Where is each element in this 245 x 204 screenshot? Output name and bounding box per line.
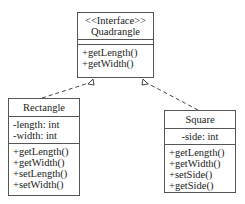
class-square: Square -side: int +getLength() +getWidth… [164, 110, 236, 193]
method: +setSide() [169, 169, 231, 180]
class-attributes: -side: int [165, 128, 235, 144]
interface-name: Quadrangle [82, 26, 149, 37]
method: +getSide() [169, 180, 231, 191]
class-name: Rectangle [9, 99, 79, 116]
class-name: Square [165, 111, 235, 128]
method: +getWidth() [82, 58, 149, 69]
class-methods: +getLength() +getWidth() +setSide() +get… [165, 144, 235, 193]
attribute: -side: int [169, 131, 231, 142]
method: +getLength() [13, 146, 75, 157]
class-rectangle: Rectangle -length: int -width: int +getL… [8, 98, 80, 196]
method: +getWidth() [169, 158, 231, 169]
method: +getWidth() [13, 157, 75, 168]
method: +getLength() [169, 147, 231, 158]
interface-methods: +getLength() +getWidth() [78, 44, 153, 71]
interface-header: <<Interface>> Quadrangle [78, 13, 153, 39]
class-attributes: -length: int -width: int [9, 116, 79, 143]
attribute: -width: int [13, 130, 75, 141]
attribute: -length: int [13, 119, 75, 130]
interface-quadrangle: <<Interface>> Quadrangle +getLength() +g… [77, 12, 154, 78]
class-methods: +getLength() +getWidth() +setLength() +s… [9, 143, 79, 192]
method: +setWidth() [13, 179, 75, 190]
method: +getLength() [82, 47, 149, 58]
stereotype-label: <<Interface>> [82, 15, 149, 26]
method: +setLength() [13, 168, 75, 179]
